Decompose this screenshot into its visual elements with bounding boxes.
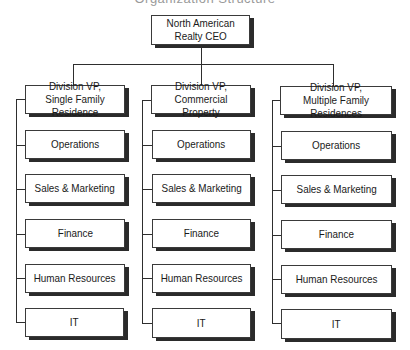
dept-box-finance: Finance (281, 220, 392, 249)
ceo-label: North American Realty CEO (166, 17, 234, 43)
dept-label: IT (197, 317, 206, 330)
dept-stub (16, 145, 25, 146)
dept-box-it: IT (25, 308, 124, 337)
dept-label: Finance (319, 228, 354, 241)
dept-label: Operations (312, 139, 360, 152)
dept-box-sales-marketing: Sales & Marketing (25, 174, 125, 203)
dept-label: IT (332, 318, 341, 331)
dept-stub (142, 278, 152, 279)
dept-label: Human Resources (161, 272, 243, 285)
dept-label: Finance (57, 227, 92, 240)
dept-label: Finance (184, 227, 219, 240)
dept-box-human-resources: Human Resources (281, 265, 392, 294)
dept-box-it: IT (281, 309, 392, 339)
dept-box-it: IT (152, 308, 251, 338)
diagram-caption: Organization Structure (0, 0, 410, 6)
division-box-multiple-family: Division VP, Multiple Family Residences (280, 86, 392, 115)
dept-stub (272, 323, 281, 324)
division-3-stub (272, 100, 280, 101)
division-bus-line (73, 64, 334, 65)
division-3-spine (272, 100, 273, 324)
dept-label: Operations (51, 138, 99, 151)
division-1-stub (16, 99, 25, 100)
dept-label: Sales & Marketing (35, 182, 115, 195)
division-2-stub (142, 100, 151, 101)
dept-label: Human Resources (296, 273, 378, 286)
dept-box-operations: Operations (25, 130, 125, 159)
division-1-spine (16, 99, 17, 323)
division-box-commercial: Division VP, Commercial Property (151, 85, 251, 114)
dept-label: Operations (177, 138, 225, 151)
division-label: Division VP, Commercial Property (159, 80, 243, 119)
dept-stub (272, 235, 281, 236)
dept-box-operations: Operations (152, 130, 251, 159)
dept-box-human-resources: Human Resources (152, 264, 251, 293)
dept-label: Sales & Marketing (161, 182, 241, 195)
dept-label: Human Resources (34, 272, 116, 285)
dept-box-sales-marketing: Sales & Marketing (281, 175, 392, 204)
dept-stub (16, 234, 25, 235)
ceo-connector (201, 48, 202, 65)
division-label: Division VP, Multiple Family Residences (289, 81, 384, 120)
dept-box-sales-marketing: Sales & Marketing (152, 174, 251, 203)
ceo-box: North American Realty CEO (151, 15, 250, 45)
division-2-spine (142, 100, 143, 323)
dept-stub (142, 145, 152, 146)
dept-stub (272, 190, 281, 191)
dept-stub (142, 323, 152, 324)
dept-label: IT (70, 316, 79, 329)
dept-stub (16, 278, 25, 279)
dept-stub (16, 322, 25, 323)
dept-label: Sales & Marketing (296, 183, 376, 196)
dept-stub (142, 234, 152, 235)
dept-box-finance: Finance (152, 219, 251, 248)
dept-stub (272, 279, 281, 280)
dept-stub (272, 146, 281, 147)
dept-box-finance: Finance (25, 219, 125, 248)
dept-stub (16, 189, 25, 190)
dept-stub (142, 189, 152, 190)
dept-box-human-resources: Human Resources (25, 264, 125, 293)
division-label: Division VP, Single Family Residence (33, 80, 117, 119)
division-box-single-family: Division VP, Single Family Residence (25, 85, 125, 114)
dept-box-operations: Operations (281, 131, 392, 160)
